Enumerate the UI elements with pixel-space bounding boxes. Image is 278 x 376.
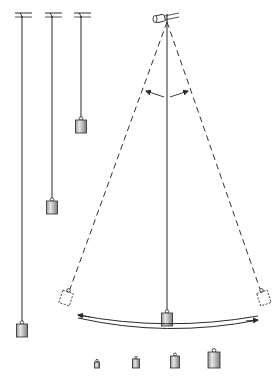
pendulum-bob-short — [76, 117, 87, 133]
pendulum-diagram — [0, 0, 278, 376]
swing-bob-right-ghost — [256, 287, 271, 306]
pendulum-bob-medium — [47, 198, 58, 214]
pendulum-bob-long — [17, 321, 28, 337]
pivot-cylinder-end — [153, 16, 157, 23]
swing-string-left-dashed — [70, 22, 167, 289]
bob-body — [133, 359, 140, 368]
bob-body — [95, 362, 100, 368]
hook-ring — [174, 353, 177, 356]
swing-arrow-left-icon — [78, 315, 90, 317]
hook-ring — [135, 356, 137, 358]
bob-body — [59, 290, 73, 306]
swing-string-right-dashed — [167, 22, 260, 289]
bob-body — [47, 201, 58, 214]
bob-body — [171, 356, 180, 368]
weight-4-icon — [208, 349, 220, 368]
bob-body — [257, 290, 271, 306]
diagram-svg — [0, 0, 278, 376]
weight-1-icon — [95, 359, 100, 368]
hook-ring — [96, 359, 98, 361]
bob-body — [76, 120, 87, 133]
angle-arrow-left-icon — [146, 91, 164, 97]
angle-arrow-right-icon — [170, 91, 188, 97]
bob-body — [17, 324, 28, 337]
bob-body — [208, 352, 220, 368]
weight-2-icon — [133, 356, 140, 368]
weight-3-icon — [171, 353, 180, 368]
swing-bob-left-ghost — [59, 287, 74, 306]
